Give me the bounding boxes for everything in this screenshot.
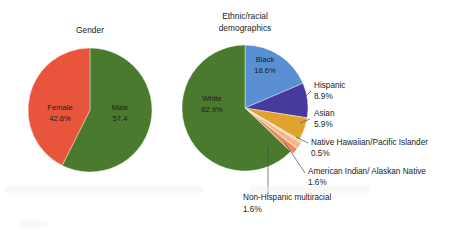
gender-chart: Gender Female 42.6% Male 57.4 (28, 25, 152, 172)
gender-chart-title: Gender (76, 25, 104, 35)
callout-label-multiracial-name: Non-Hispanic multiracial (243, 193, 331, 202)
callout-label-nhpi-name: Native Hawaiian/Pacific Islander (311, 138, 428, 147)
ethnicity-chart: Ethnic/racial demographics White 62.9% B… (182, 11, 428, 214)
callout-label-aian-value: 1.6% (308, 178, 327, 187)
ethnicity-chart-title-line1: Ethnic/racial (222, 11, 268, 21)
slice-label-black-name: Black (256, 55, 275, 64)
slice-label-male-name: Male (112, 103, 128, 112)
slice-label-female-name: Female (47, 103, 72, 112)
slice-label-male-value: 57.4 (113, 114, 128, 123)
slice-label-female-value: 42.6% (49, 114, 71, 123)
ethnicity-chart-title-line2: demographics (219, 23, 272, 33)
callout-label-hispanic-value: 8.9% (314, 92, 333, 101)
pie-charts-figure: Gender Female 42.6% Male 57.4 Ethnic/rac… (0, 0, 451, 230)
callout-label-asian-value: 5.9% (314, 120, 333, 129)
callout-label-hispanic-name: Hispanic (314, 81, 345, 90)
slice-label-white-value: 62.9% (201, 105, 223, 114)
callout-label-asian-name: Asian (314, 109, 335, 118)
slice-label-black-value: 18.6% (254, 66, 276, 75)
callout-label-nhpi-value: 0.5% (311, 149, 330, 158)
callout-label-multiracial-value: 1.6% (243, 205, 262, 214)
slice-label-white-name: White (202, 94, 221, 103)
callout-label-aian-name: American Indian/ Alaskan Native (308, 167, 426, 176)
